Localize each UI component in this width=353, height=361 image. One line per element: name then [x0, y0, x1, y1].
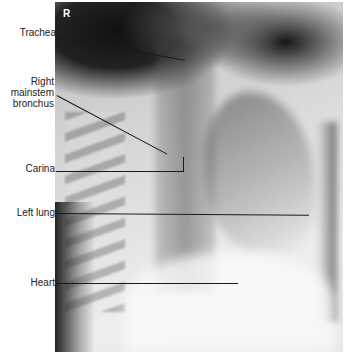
label-trachea: Trachea	[4, 27, 56, 38]
lung-shadow	[205, 92, 315, 252]
heart-shadow	[125, 252, 335, 352]
orientation-marker: R	[63, 8, 70, 19]
leader-bracket-carina	[183, 157, 184, 172]
leader-line-heart	[56, 283, 238, 284]
chest-xray-image: R	[55, 2, 343, 352]
back-edge	[55, 202, 95, 352]
leader-line-carina	[56, 171, 184, 172]
label-heart: Heart	[4, 277, 55, 288]
label-right-mainstem-bronchus: Right mainstem bronchus	[4, 76, 54, 109]
label-carina: Carina	[4, 163, 55, 174]
label-left-lung: Left lung	[4, 207, 55, 218]
